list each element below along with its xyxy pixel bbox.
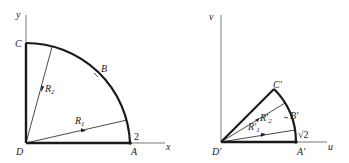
ray-R1-label: R1 — [74, 115, 85, 128]
point-A-label: A — [130, 146, 138, 157]
arc-ABC — [26, 43, 130, 143]
ray-R2-prime-label: R′2 — [259, 112, 272, 125]
tick-B — [94, 73, 98, 77]
right-diagram: v u C′ B′ D′ A′ √2 R′2 R′1 — [209, 11, 333, 157]
point-D-label: D — [15, 146, 24, 157]
ray-R2-label: R2 — [44, 83, 55, 96]
diagram-canvas: y x C B D A 2 R2 R1 v u C′ B′ D′ A′ √2 R… — [0, 0, 349, 163]
arrow-R1-icon — [81, 128, 86, 132]
y-axis-label: y — [15, 9, 21, 20]
point-B-label: B — [101, 63, 107, 74]
ray-R2 — [26, 47, 52, 143]
point-D-prime-label: D′ — [211, 146, 222, 157]
point-C-label: C — [15, 38, 22, 49]
tick-B-prime — [284, 117, 288, 118]
v-axis-label: v — [209, 11, 214, 22]
point-B-prime-label: B′ — [290, 110, 299, 121]
radius-label: 2 — [134, 131, 139, 142]
point-A-prime-label: A′ — [296, 146, 306, 157]
left-diagram: y x C B D A 2 R2 R1 — [15, 9, 171, 157]
point-A-dot — [128, 141, 132, 145]
point-C-prime-label: C′ — [273, 79, 283, 90]
ray-R1-prime-label: R′1 — [247, 121, 260, 134]
radius-label-prime: √2 — [298, 129, 309, 140]
x-axis-label: x — [165, 141, 171, 152]
point-A-prime-dot — [294, 140, 298, 144]
u-axis-label: u — [328, 141, 333, 152]
